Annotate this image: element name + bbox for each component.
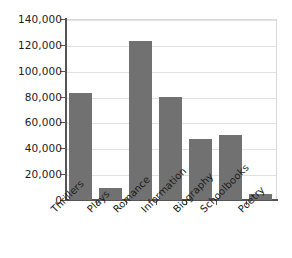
x-tick-label-poetry: Poetry <box>236 184 267 215</box>
x-tick-label-plays: Plays <box>85 188 112 215</box>
bar-chart: 140,000 120,000 100,000 80,000 60,000 40… <box>0 0 292 258</box>
x-tick-label-thrillers: Thrillers <box>49 178 86 215</box>
x-axis-labels: Thrillers Plays Romance Information Biog… <box>0 0 292 258</box>
